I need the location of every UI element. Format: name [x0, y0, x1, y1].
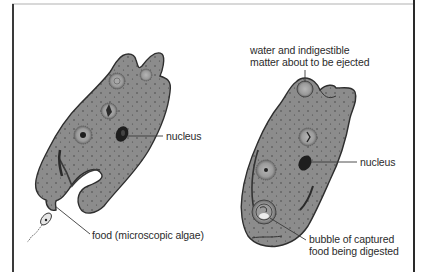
right-nucleus-label: nucleus [360, 156, 396, 168]
left-nucleus-label: nucleus [166, 130, 202, 142]
left-vacuole-2 [140, 69, 152, 81]
bubble-label-line2: food being digested [309, 245, 399, 257]
right-amoeba [241, 70, 357, 247]
food-label: food (microscopic algae) [92, 229, 204, 241]
right-vacuole-1 [299, 128, 317, 146]
food-bubble [252, 200, 276, 224]
ejected-label-line2: matter about to be ejected [250, 56, 369, 68]
bubble-label-line1: bubble of captured [309, 233, 394, 245]
ejection-vacuole [297, 81, 313, 97]
ejected-label-line1: water and indigestible [250, 44, 349, 56]
left-amoeba [27, 53, 170, 242]
food-algae-icon [27, 211, 54, 242]
